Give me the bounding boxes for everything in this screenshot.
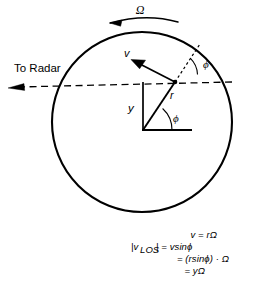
omega-label: Ω (136, 3, 145, 17)
equation-line-4: = yΩ (184, 265, 205, 276)
velocity-label: v (124, 47, 131, 59)
equation-block: v = rΩ |v LOS | = vsinϕ = (rsinϕ) · Ω = … (131, 229, 229, 276)
radius-label: r (170, 89, 174, 101)
lower-angle-arc (163, 109, 172, 131)
lower-phi-label: ϕ (173, 112, 179, 124)
radius-extension-dotted (175, 44, 200, 82)
line-of-sight-dashed (18, 82, 232, 87)
equation-line-1: v = rΩ (190, 229, 217, 240)
radar-arrowhead-icon (8, 84, 25, 91)
equation-line-2-rhs: | = vsinϕ (156, 241, 192, 252)
radar-geometry-svg: Ω To Radar v ϕ r y ϕ (0, 0, 259, 290)
to-radar-label: To Radar (14, 62, 61, 74)
height-label: y (127, 102, 135, 114)
point-on-circle-marker (173, 80, 178, 85)
upper-phi-label: ϕ (203, 58, 209, 70)
upper-angle-arc (190, 58, 197, 74)
rotation-arc-group (110, 18, 178, 26)
line-of-sight-group (8, 82, 232, 90)
diagram-figure: Ω To Radar v ϕ r y ϕ (0, 0, 259, 290)
velocity-arrowhead-icon (131, 60, 146, 69)
equation-line-3: = (rsinϕ) · Ω (177, 253, 229, 264)
velocity-vector-group (131, 60, 175, 83)
equation-line-2-lhs: |v (131, 241, 140, 252)
